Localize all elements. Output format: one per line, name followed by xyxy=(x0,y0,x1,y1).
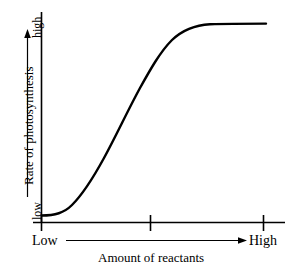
y-axis-tick-label-low: low xyxy=(31,202,43,220)
y-axis-title: Rate of photosynthesis xyxy=(22,67,35,185)
chart-canvas xyxy=(0,0,289,269)
x-axis-arrow-head-icon xyxy=(238,237,247,244)
y-axis-tick-label-high: high xyxy=(31,17,43,38)
x-axis-title: Amount of reactants xyxy=(98,251,204,264)
axis-lines xyxy=(33,12,285,223)
x-axis-direction-arrow xyxy=(66,237,247,244)
x-axis-tick-label-low: Low xyxy=(32,234,58,248)
photosynthesis-rate-chart: high low Rate of photosynthesis Low High… xyxy=(0,0,289,269)
sigmoid-curve xyxy=(42,24,267,216)
x-axis-tick-label-high: High xyxy=(249,234,277,248)
